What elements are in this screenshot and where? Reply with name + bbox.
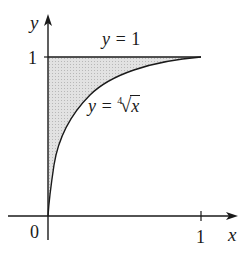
origin-label: 0 [30, 223, 39, 241]
area-diagram: y x 0 1 1 y = 1 y = 4√x [0, 0, 250, 267]
eq1-value: 1 [131, 29, 140, 49]
fourth-root-expression: 4√x [117, 95, 140, 115]
equation-y-equals-1: y = 1 [102, 30, 140, 48]
y-tick-label: 1 [28, 49, 37, 67]
eq2-prefix: y = [88, 96, 117, 116]
eq1-prefix: y = [102, 29, 131, 49]
radicand: x [130, 95, 140, 116]
shaded-region [48, 57, 201, 216]
x-axis-label: x [228, 225, 236, 244]
root-index: 4 [117, 95, 122, 106]
equation-fourth-root: y = 4√x [88, 95, 140, 115]
x-tick-label: 1 [196, 228, 205, 246]
y-axis-label: y [30, 13, 38, 32]
